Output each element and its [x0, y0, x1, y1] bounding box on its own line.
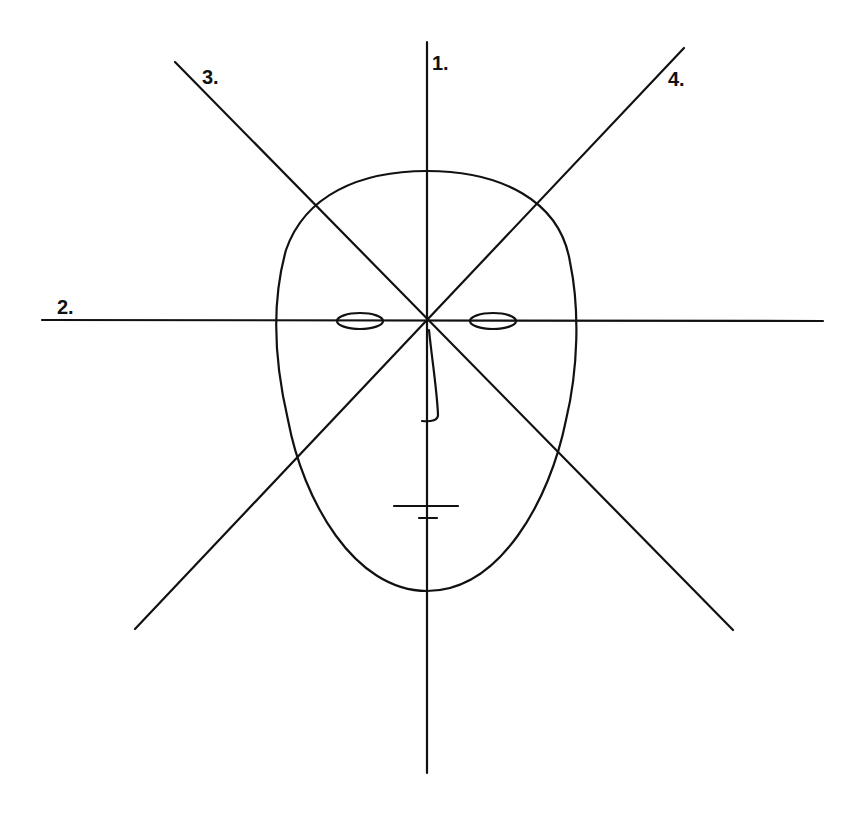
axis-label-4: 4. — [668, 68, 685, 90]
axis-line-4 — [135, 48, 684, 629]
axis-line-2 — [42, 320, 823, 321]
face-axes-diagram: 1. 2. 3. 4. — [0, 0, 867, 814]
axis-label-3: 3. — [202, 66, 219, 88]
nose — [422, 330, 438, 421]
axis-label-2: 2. — [57, 296, 74, 318]
axis-label-1: 1. — [432, 52, 449, 74]
axis-line-3 — [175, 62, 733, 630]
